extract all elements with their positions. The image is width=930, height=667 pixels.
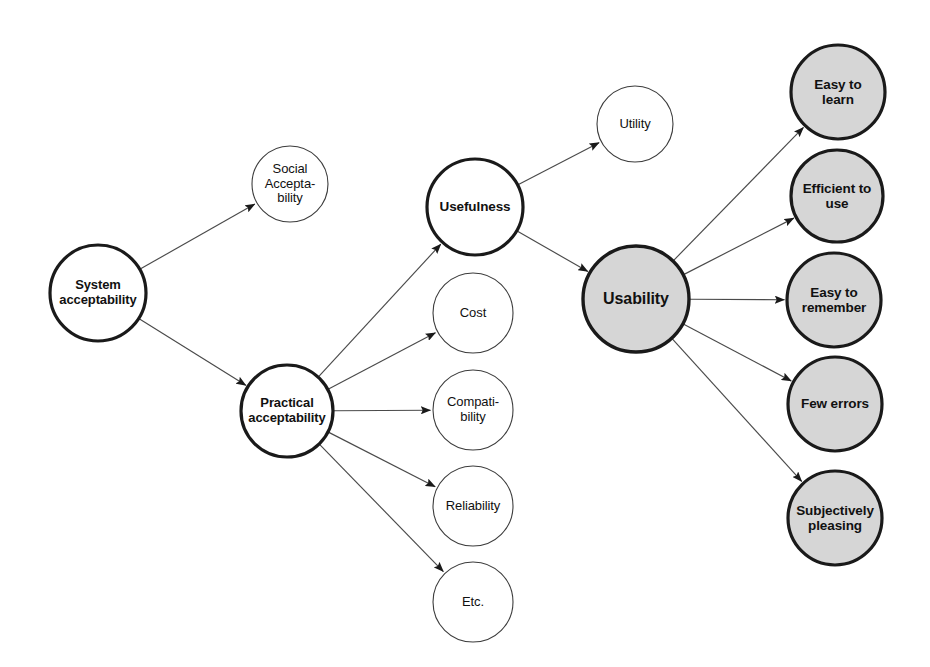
edge-usability-subjectively-pleasing: [672, 339, 801, 481]
edge-system-practical: [140, 319, 246, 385]
node-circle-efficient-to-use[interactable]: [791, 150, 883, 242]
node-circle-cost[interactable]: [433, 273, 513, 353]
edge-usefulness-utility: [519, 143, 600, 185]
node-circle-system-acceptability[interactable]: [50, 245, 146, 341]
edge-usefulness-usability: [518, 231, 588, 271]
node-circle-easy-to-learn[interactable]: [791, 45, 885, 139]
edge-practical-compatibility: [334, 410, 431, 411]
node-circle-few-errors[interactable]: [788, 357, 882, 451]
nodes-layer: [50, 45, 885, 642]
node-circle-usability[interactable]: [583, 246, 689, 352]
edge-usability-few-errors: [684, 324, 791, 381]
edge-usability-efficient-to-use: [684, 218, 794, 274]
node-circle-usefulness[interactable]: [427, 159, 523, 255]
node-circle-social-acceptability[interactable]: [252, 146, 328, 222]
node-circle-compatibility[interactable]: [433, 370, 513, 450]
node-circle-subjectively-pleasing[interactable]: [788, 471, 882, 565]
node-circle-easy-to-remember[interactable]: [787, 253, 881, 347]
diagram-canvas: System acceptabilitySocial Accepta- bili…: [0, 0, 930, 667]
edge-usability-easy-to-learn: [674, 127, 804, 260]
node-circle-practical-acceptability[interactable]: [241, 365, 333, 457]
edge-practical-cost: [329, 333, 436, 389]
edge-practical-usefulness: [319, 244, 441, 376]
edge-system-social: [141, 204, 255, 269]
edge-practical-etc: [320, 445, 444, 572]
edge-practical-reliability: [329, 432, 435, 486]
node-circle-etc[interactable]: [433, 562, 513, 642]
diagram-svg: [0, 0, 930, 667]
node-circle-utility[interactable]: [597, 86, 673, 162]
node-circle-reliability[interactable]: [433, 466, 513, 546]
